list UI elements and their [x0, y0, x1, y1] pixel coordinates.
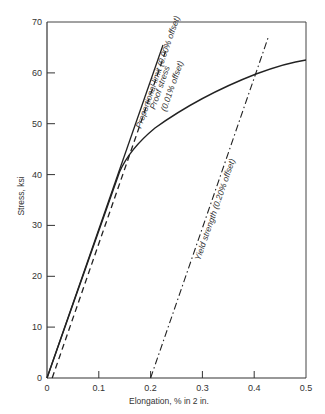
x-tick-labels: 0 0.1 0.2 0.3 0.4 0.5	[44, 383, 312, 393]
y-tick-label: 70	[32, 17, 42, 27]
y-tick-label: 10	[32, 322, 42, 332]
x-ticks	[99, 371, 254, 378]
x-tick-label: 0.3	[196, 383, 209, 393]
stress-strain-curve	[47, 60, 306, 378]
y-tick-label: 30	[32, 220, 42, 230]
y-tick-label: 40	[32, 170, 42, 180]
x-axis-label: Elongation, % in 2 in.	[129, 396, 209, 406]
y-tick-label: 60	[32, 68, 42, 78]
x-tick-label: 0	[44, 383, 49, 393]
x-tick-label: 0.5	[300, 383, 313, 393]
y-tick-label: 20	[32, 271, 42, 281]
y-tick-label: 0	[37, 373, 42, 383]
y-axis-label: Stress, ksi	[16, 176, 26, 215]
y-tick-labels: 0 10 20 30 40 50 60 70	[32, 17, 42, 383]
yield-strength-annotation: Yield strength (0.20% offset)	[192, 157, 237, 262]
y-ticks	[47, 73, 55, 327]
x-tick-label: 0.4	[248, 383, 261, 393]
y-tick-label: 50	[32, 119, 42, 129]
stress-strain-chart: 0 10 20 30 40 50 60 70 0 0.1 0.2 0.3 0.4…	[0, 0, 325, 414]
x-tick-label: 0.2	[144, 383, 157, 393]
x-tick-label: 0.1	[93, 383, 106, 393]
